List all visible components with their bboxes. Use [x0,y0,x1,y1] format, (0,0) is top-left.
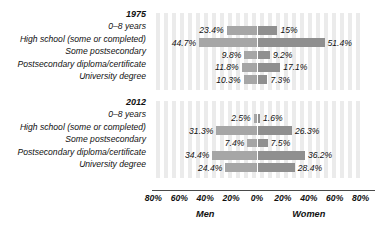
axis-tick-label: 80% [145,193,162,203]
bar-men [212,151,257,160]
value-label-women: 17.1% [283,61,307,73]
value-label-men: 9.8% [222,49,242,61]
bar-men [227,26,257,35]
bar-rows-2012: 2.5%1.6%31.3%26.3%7.4%7.5%34.4%36.2%24.4… [152,101,360,174]
bar-row: 2.5%1.6% [152,112,360,124]
zero-divider [257,24,258,36]
value-label-men: 7.4% [225,137,245,149]
bar-women [258,114,260,123]
value-label-women: 36.2% [308,149,332,161]
bar-rows-1975: 23.4%15%44.7%51.4%9.8%9.2%11.8%17.1%10.3… [152,13,360,86]
value-label-men: 24.4% [198,162,222,174]
zero-divider [257,61,258,73]
bar-row: 7.4%7.5% [152,137,360,149]
value-label-women: 7.3% [270,74,290,86]
zero-divider [257,49,258,61]
x-axis-group-labels: MenWomen [0,209,385,223]
category-label-postsecondary-diploma: Postsecondary diploma/certificate [0,58,146,70]
value-label-women: 51.4% [328,37,352,49]
axis-tick-label: 20% [274,193,291,203]
bar-men [242,63,257,72]
category-label-some-postsecondary: Some postsecondary [0,133,146,145]
category-label-high-school: High school (some or completed) [0,121,146,133]
category-label-some-postsecondary: Some postsecondary [0,45,146,57]
zero-divider [257,74,258,86]
bar-row: 34.4%36.2% [152,149,360,161]
bar-row: 44.7%51.4% [152,36,360,48]
axis-tick-label: 80% [352,193,369,203]
zero-divider [257,149,258,161]
value-label-men: 34.4% [185,149,209,161]
bar-row: 24.4%28.4% [152,162,360,174]
axis-tick-label: 40% [300,193,317,203]
axis-tick-label: 40% [197,193,214,203]
bar-men [199,38,257,47]
value-label-men: 23.4% [199,24,223,36]
value-label-women: 9.2% [273,49,293,61]
x-axis-tick-labels: 80%60%40%20%0%20%40%60%80% [0,193,385,205]
bar-women [258,63,280,72]
value-label-women: 26.3% [295,125,319,137]
value-label-men: 31.3% [189,125,213,137]
category-label-postsecondary-diploma: Postsecondary diploma/certificate [0,146,146,158]
bar-row: 31.3%26.3% [152,124,360,136]
value-label-women: 1.6% [263,112,283,124]
category-label-0-8-years: 0–8 years [0,108,146,120]
zero-divider [257,36,258,48]
axis-group-label-men: Men [196,209,214,219]
zero-divider [257,124,258,136]
value-label-men: 11.8% [215,61,239,73]
category-label-university-degree: University degree [0,70,146,82]
category-labels-1975: 1975 0–8 years High school (some or comp… [0,8,146,82]
bar-row: 10.3%7.3% [152,74,360,86]
axis-tick-label: 60% [171,193,188,203]
bar-women [258,126,292,135]
panel-title-1975: 1975 [0,8,146,20]
x-axis-line [152,190,375,191]
axis-group-label-women: Women [292,209,325,219]
bar-women [258,163,295,172]
value-label-women: 28.4% [298,162,322,174]
bar-women [258,139,268,148]
zero-divider [257,137,258,149]
value-label-men: 2.5% [231,112,251,124]
axis-tick-label: 0% [251,193,263,203]
value-label-women: 7.5% [271,137,291,149]
bar-women [258,26,277,35]
category-label-0-8-years: 0–8 years [0,20,146,32]
bar-men [216,126,257,135]
bar-row: 9.8%9.2% [152,49,360,61]
value-label-men: 10.3% [216,74,240,86]
bar-women [258,151,305,160]
value-label-women: 15% [280,24,297,36]
bar-men [244,51,257,60]
category-label-high-school: High school (some or completed) [0,33,146,45]
bar-women [258,75,267,84]
bar-women [258,51,270,60]
zero-divider [257,112,258,124]
category-label-university-degree: University degree [0,158,146,170]
bar-men [225,163,257,172]
axis-tick-label: 20% [222,193,239,203]
value-label-men: 44.7% [172,37,196,49]
zero-divider [257,162,258,174]
bar-row: 11.8%17.1% [152,61,360,73]
bar-men [247,139,257,148]
bar-women [258,38,325,47]
panel-title-2012: 2012 [0,96,146,108]
population-pyramid-chart: 1975 0–8 years High school (some or comp… [0,0,385,233]
bar-men [244,75,257,84]
category-labels-2012: 2012 0–8 years High school (some or comp… [0,96,146,170]
axis-tick-label: 60% [326,193,343,203]
bar-row: 23.4%15% [152,24,360,36]
